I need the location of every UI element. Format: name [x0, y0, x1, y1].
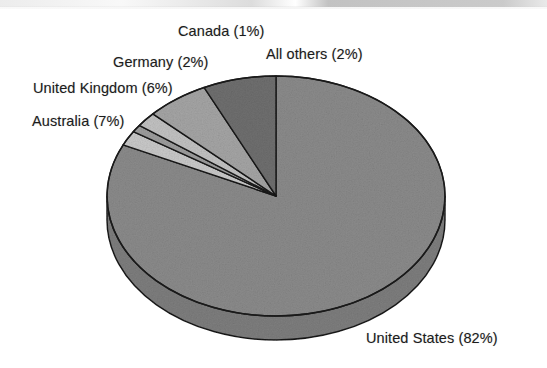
slice-label-all-others: All others (2%): [266, 46, 363, 62]
pie-chart-page: Canada (1%) All others (2%) Germany (2%)…: [0, 0, 547, 368]
slice-label-united-states: United States (82%): [366, 330, 498, 346]
slice-label-australia: Australia (7%): [32, 113, 124, 129]
pie-slice-group: [107, 76, 445, 316]
slice-label-germany: Germany (2%): [113, 54, 208, 70]
slice-label-united-kingdom: United Kingdom (6%): [33, 80, 173, 96]
slice-label-canada: Canada (1%): [178, 23, 265, 39]
